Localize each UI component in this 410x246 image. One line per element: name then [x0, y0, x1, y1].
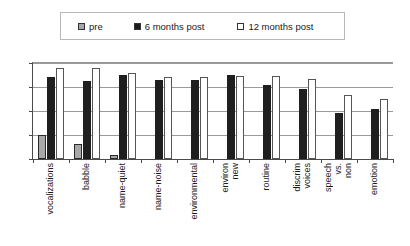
bar	[308, 79, 316, 159]
x-axis-label: vocalizations	[32, 163, 68, 243]
x-axis-label-line: non	[343, 163, 353, 178]
bar	[38, 135, 46, 159]
legend-swatch-12-months-post-icon	[237, 23, 244, 30]
bar	[92, 68, 100, 159]
bar-group	[141, 63, 177, 159]
bar-group	[105, 63, 141, 159]
bar	[263, 85, 271, 159]
x-axis-label: emotion	[356, 163, 392, 243]
x-axis-label: environnew	[212, 163, 248, 243]
legend-swatch-6-months-post-icon	[134, 23, 141, 30]
bar-group	[321, 63, 357, 159]
bar	[74, 144, 82, 159]
x-axis-label: discrimvoices	[284, 163, 320, 243]
bar-group	[177, 63, 213, 159]
x-axis-label: babble	[68, 163, 104, 243]
bar	[335, 113, 343, 159]
bar	[236, 76, 244, 159]
chart-legend: pre 6 months post 12 months post	[60, 12, 345, 40]
bar	[110, 155, 118, 159]
x-axis-label-line: vs.	[333, 163, 343, 175]
bar	[119, 75, 127, 159]
bar	[380, 99, 388, 159]
bar	[371, 109, 379, 159]
bar	[191, 80, 199, 159]
x-axis-label-line: voices	[302, 163, 312, 189]
bar	[344, 95, 352, 159]
bar	[272, 76, 280, 159]
legend-item-12-months-post: 12 months post	[237, 21, 313, 32]
bar	[56, 68, 64, 159]
x-axis-label: routine	[248, 163, 284, 243]
bar-group	[69, 63, 105, 159]
x-axis-label-line: speech	[323, 163, 333, 192]
x-axis-label-line: environmental	[189, 163, 199, 220]
x-axis-label-line: new	[230, 163, 240, 180]
bar	[83, 81, 91, 159]
x-axis-label: environmental	[176, 163, 212, 243]
bar	[155, 80, 163, 159]
x-axis-label-line: discrim	[292, 163, 302, 192]
x-axis-label-line: environ	[220, 163, 230, 193]
bar	[200, 77, 208, 159]
bar	[164, 77, 172, 159]
x-axis-label-line: name-noise	[153, 163, 163, 210]
bar-group	[249, 63, 285, 159]
bar	[299, 89, 307, 159]
plot-area: 01234	[32, 62, 393, 159]
bar	[128, 73, 136, 159]
x-axis-label-line: name-quiet	[117, 163, 127, 208]
legend-swatch-pre-icon	[78, 23, 85, 30]
legend-item-6-months-post: 6 months post	[134, 21, 205, 32]
legend-item-pre: pre	[78, 21, 103, 32]
bar	[227, 75, 235, 159]
x-axis-labels: vocalizationsbabblename-quietname-noisee…	[32, 163, 392, 245]
x-axis-label-line: babble	[81, 163, 91, 190]
legend-label-6-months-post: 6 months post	[145, 21, 205, 32]
x-axis-tick	[393, 159, 394, 163]
legend-label-pre: pre	[89, 21, 103, 32]
bar-series-container	[33, 63, 393, 159]
x-axis-label-line: emotion	[369, 163, 379, 195]
x-axis-label-line: vocalizations	[45, 163, 55, 215]
x-axis-label: name-noise	[140, 163, 176, 243]
bar-chart: pre 6 months post 12 months post 01234 v…	[0, 0, 410, 246]
bar-group	[33, 63, 69, 159]
bar	[47, 77, 55, 159]
x-axis-label-line: routine	[261, 163, 271, 191]
x-axis-label: speechvs.non	[320, 163, 356, 243]
x-axis-label: name-quiet	[104, 163, 140, 243]
bar-group	[213, 63, 249, 159]
bar-group	[285, 63, 321, 159]
bar-group	[357, 63, 393, 159]
legend-label-12-months-post: 12 months post	[248, 21, 313, 32]
